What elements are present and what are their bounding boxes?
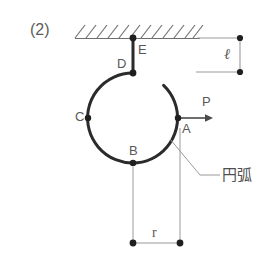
arc-annotation-leader [170, 139, 220, 175]
dimension-ell [196, 35, 243, 75]
support-hatching-group [75, 25, 203, 39]
figure-canvas: (2) E D C A B P ℓ r 円弧 [0, 0, 267, 258]
node-dot-B [130, 160, 136, 166]
dimension-label-ell: ℓ [224, 47, 230, 62]
point-label-B: B [129, 144, 138, 157]
node-dot-A [175, 115, 181, 121]
node-dot-E [130, 35, 137, 42]
point-label-E: E [138, 43, 147, 56]
dimension-label-r: r [152, 226, 157, 240]
mechanics-diagram-svg [0, 0, 267, 258]
hatch-lines [75, 25, 203, 38]
force-label-P: P [202, 95, 211, 108]
point-label-D: D [117, 57, 126, 70]
point-label-C: C [75, 110, 84, 123]
arc-annotation-label: 円弧 [222, 167, 252, 182]
node-dot-C [85, 115, 91, 121]
point-label-A: A [182, 122, 191, 135]
node-dot-D [130, 70, 137, 77]
problem-number-label: (2) [30, 22, 50, 38]
